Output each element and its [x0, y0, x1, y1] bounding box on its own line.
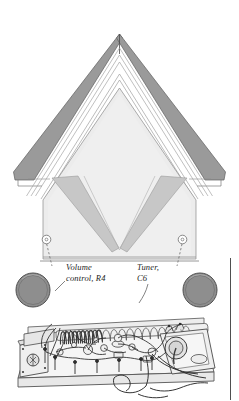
- leader-tuner-to-knob: [139, 284, 148, 303]
- knob-volume-r4[interactable]: [16, 273, 50, 307]
- knob-tuner-c6[interactable]: [183, 273, 217, 307]
- callout-label-tuner: Tuner, C6: [137, 262, 159, 283]
- callout-label-volume: Volume control, R4: [66, 262, 106, 283]
- callout-label-tuner-line1: Tuner,: [137, 262, 159, 273]
- leader-volume-to-knob: [55, 281, 65, 291]
- callout-label-tuner-line2: C6: [137, 273, 159, 284]
- figure-illustration: [0, 0, 239, 401]
- radio-cabinet-drawing: [0, 0, 239, 401]
- callout-label-volume-line1: Volume: [66, 262, 106, 273]
- callout-label-volume-line2: control, R4: [66, 273, 106, 284]
